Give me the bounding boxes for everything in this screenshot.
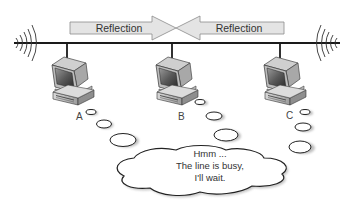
thought-trail-b xyxy=(195,100,238,142)
thought-line-3: I'll wait. xyxy=(155,172,265,184)
computer-icon-b xyxy=(156,57,198,105)
node-label-a: A xyxy=(76,111,83,122)
arrow-label-left: Reflection xyxy=(204,22,274,34)
node-label-b: B xyxy=(178,111,185,122)
thought-line-2: The line is busy, xyxy=(155,160,265,172)
arrow-label-right: Reflection xyxy=(86,22,152,34)
thought-text: Hmm ... The line is busy, I'll wait. xyxy=(155,148,265,184)
diagram-canvas: Reflection Reflection A B C Hmm ... The … xyxy=(0,0,352,208)
computer-icon-c xyxy=(264,57,306,105)
thought-line-1: Hmm ... xyxy=(155,148,265,160)
computer-icon-a xyxy=(52,57,94,105)
node-label-c: C xyxy=(286,110,293,121)
